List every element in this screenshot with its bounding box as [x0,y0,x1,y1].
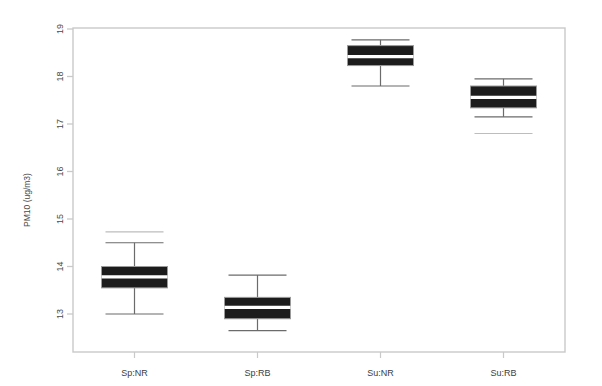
y-axis-title-group: PM10 (ug/m3) [22,173,32,227]
y-axis-tick-label: 16 [55,166,65,176]
plot-frame-rect [73,28,565,352]
y-axis-tick-label: 19 [55,24,65,34]
y-axis-tick-label: 17 [55,119,65,129]
x-axis-label-su-nr: Su:NR [367,368,394,378]
boxplot-box-sp-nr [102,232,168,314]
y-axis-tick-label: 15 [55,214,65,224]
boxplot-canvas: PM10 (ug/m3) 13141516171819 Sp:NRSp:RBSu… [0,0,602,386]
boxplot-box-sp-rb [225,275,291,331]
y-axis-tick-label: 14 [55,261,65,271]
boxplot-box-su-nr [348,40,414,86]
boxplot-series-group [102,40,537,331]
x-axis-labels-group: Sp:NRSp:RBSu:NRSu:RB [121,352,516,378]
y-axis-tick-label: 13 [55,309,65,319]
boxplot-figure: PM10 (ug/m3) 13141516171819 Sp:NRSp:RBSu… [0,0,602,386]
y-axis-title: PM10 (ug/m3) [22,173,32,227]
x-axis-label-sp-rb: Sp:RB [244,368,270,378]
y-axis-ticks-group: 13141516171819 [55,24,73,319]
plot-frame [73,28,565,352]
boxplot-box-su-rb [471,79,537,134]
x-axis-label-sp-nr: Sp:NR [121,368,148,378]
x-axis-label-su-rb: Su:RB [490,368,516,378]
y-axis-tick-label: 18 [55,71,65,81]
